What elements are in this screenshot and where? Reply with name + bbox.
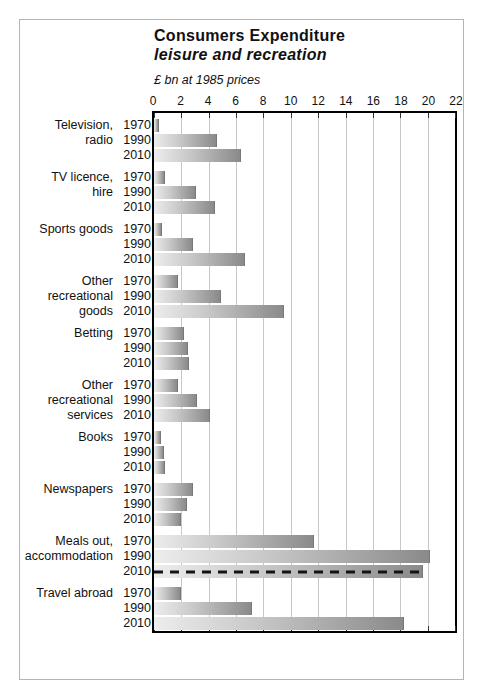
bar-track (154, 565, 453, 578)
bar-row: 1990 (20, 602, 453, 615)
year-label: 1990 (117, 550, 151, 563)
bar-track (154, 290, 453, 303)
bar (154, 431, 161, 444)
year-label: 1970 (117, 223, 151, 236)
bar-group: Meals out,1970accommodation19902010 (20, 535, 453, 578)
bar-track (154, 550, 453, 563)
bar (154, 394, 197, 407)
bar (154, 602, 252, 615)
bar (154, 201, 215, 214)
bar (154, 223, 162, 236)
category-label-line: Other (20, 379, 113, 392)
year-label: 1990 (117, 342, 151, 355)
bar-track (154, 409, 453, 422)
bar-track (154, 305, 453, 318)
bar (154, 357, 189, 370)
tick-mark (455, 113, 456, 118)
bar-group: TV licence,1970hire19902010 (20, 171, 453, 214)
bar-row: Betting1970 (20, 327, 453, 340)
bar (154, 290, 221, 303)
bar (154, 513, 181, 526)
bar-row: services2010 (20, 409, 453, 422)
bar-track (154, 461, 453, 474)
page-frame: Consumers Expenditure leisure and recrea… (19, 19, 464, 680)
chart-title: Consumers Expenditure (154, 27, 345, 45)
bar-group: Other1970recreational1990services2010 (20, 379, 453, 422)
year-label: 2010 (117, 513, 151, 526)
year-label: 1990 (117, 238, 151, 251)
bar-track (154, 327, 453, 340)
bar (154, 587, 181, 600)
bar (154, 149, 241, 162)
bar-group: Television,1970radio19902010 (20, 119, 453, 162)
bar (154, 379, 178, 392)
category-label-line: Television, (20, 119, 113, 132)
category-label-line: hire (20, 186, 113, 199)
dashed-line (154, 570, 423, 573)
bar (154, 461, 165, 474)
x-tick-label: 4 (205, 94, 212, 108)
x-tick-label: 8 (260, 94, 267, 108)
year-label: 2010 (117, 357, 151, 370)
plot-area: Television,1970radio19902010TV licence,1… (20, 113, 453, 627)
year-label: 1970 (117, 379, 151, 392)
x-tick-label: 22 (449, 94, 462, 108)
bar (154, 253, 245, 266)
bar-track (154, 238, 453, 251)
bar (154, 186, 196, 199)
year-label: 1970 (117, 587, 151, 600)
bar-group: Newspapers197019902010 (20, 483, 453, 526)
year-label: 1970 (117, 119, 151, 132)
bar-track (154, 171, 453, 184)
bar (154, 617, 404, 630)
bar-row: 2010 (20, 513, 453, 526)
x-tick-label: 14 (339, 94, 352, 108)
bar (154, 134, 217, 147)
year-label: 1990 (117, 394, 151, 407)
bar-row: 2010 (20, 201, 453, 214)
year-label: 1970 (117, 327, 151, 340)
category-label-line: Betting (20, 327, 113, 340)
category-label-line: radio (20, 134, 113, 147)
bar-row: 2010 (20, 253, 453, 266)
bar-track (154, 431, 453, 444)
bar-track (154, 149, 453, 162)
x-tick-label: 18 (394, 94, 407, 108)
bar-track (154, 602, 453, 615)
year-label: 1970 (117, 275, 151, 288)
bar (154, 275, 178, 288)
chart-subtitle: leisure and recreation (154, 46, 327, 64)
category-label-line: Other (20, 275, 113, 288)
bar-row: Other1970 (20, 379, 453, 392)
bar-row: TV licence,1970 (20, 171, 453, 184)
year-label: 1970 (117, 171, 151, 184)
category-label-line: TV licence, (20, 171, 113, 184)
category-label-line: Sports goods (20, 223, 113, 236)
category-label-line: services (20, 409, 113, 422)
year-label: 1990 (117, 446, 151, 459)
bar-row: 2010 (20, 617, 453, 630)
x-tick-label: 0 (150, 94, 157, 108)
category-label-line: Books (20, 431, 113, 444)
bar-track (154, 275, 453, 288)
bar-track (154, 379, 453, 392)
bar (154, 342, 188, 355)
bar-group: Betting197019902010 (20, 327, 453, 370)
bar-row: 1990 (20, 498, 453, 511)
category-label-line: recreational (20, 290, 113, 303)
year-label: 2010 (117, 305, 151, 318)
category-label-line: Meals out, (20, 535, 113, 548)
bar-track (154, 201, 453, 214)
year-label: 1990 (117, 498, 151, 511)
x-tick-label: 6 (232, 94, 239, 108)
bar (154, 550, 430, 563)
bar-track (154, 253, 453, 266)
bar-group: Travel abroad197019902010 (20, 587, 453, 630)
bar (154, 171, 165, 184)
year-label: 1990 (117, 186, 151, 199)
bar-track (154, 498, 453, 511)
bar-row: 2010 (20, 357, 453, 370)
bar (154, 327, 184, 340)
bar (154, 498, 187, 511)
tick-mark (455, 626, 456, 631)
